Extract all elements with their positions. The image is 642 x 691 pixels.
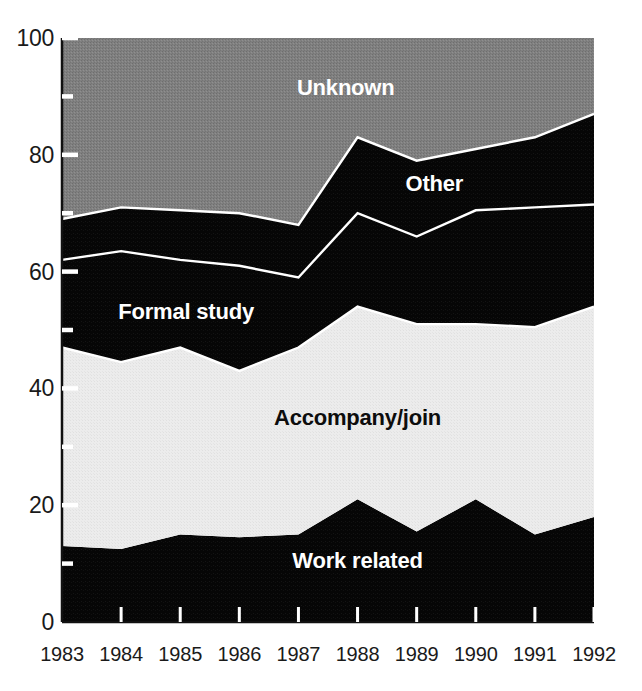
series-label-work-related: Work related [292, 550, 422, 572]
x-tick-label-1983: 1983 [40, 644, 84, 664]
series-label-unknown: Unknown [297, 77, 395, 99]
x-tick-label-1992: 1992 [572, 644, 616, 664]
x-axis: 1983198419851986198719881989199019911992 [0, 0, 642, 691]
x-tick-label-1989: 1989 [395, 644, 439, 664]
x-tick-label-1991: 1991 [513, 644, 557, 664]
series-label-accompany-join: Accompany/join [274, 407, 441, 429]
x-tick-label-1990: 1990 [454, 644, 498, 664]
x-tick-label-1985: 1985 [158, 644, 202, 664]
series-label-other: Other [406, 173, 464, 195]
stacked-area-chart: 020406080100 198319841985198619871988198… [0, 0, 642, 691]
x-tick-label-1984: 1984 [99, 644, 143, 664]
x-tick-label-1987: 1987 [277, 644, 321, 664]
series-label-formal-study: Formal study [118, 301, 254, 323]
x-tick-label-1988: 1988 [336, 644, 380, 664]
x-tick-label-1986: 1986 [217, 644, 261, 664]
